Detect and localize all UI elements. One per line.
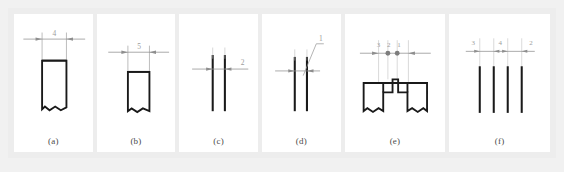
panel-a: 4 (a) (14, 14, 93, 152)
panel-b-caption: (b) (97, 136, 176, 146)
panel-f: 3 4 2 (f) (449, 14, 550, 152)
panel-strip: 4 (a) (14, 14, 550, 152)
panel-e-caption: (e) (345, 136, 446, 146)
panel-d-drawing: 1 (262, 14, 341, 126)
panel-e: 3 2 1 (e) (345, 14, 446, 152)
figure-root: 4 (a) (0, 0, 564, 172)
panel-a-drawing: 4 (14, 14, 93, 126)
panel-b-dimension-label: 5 (137, 42, 141, 51)
panel-d-dimension-label: 1 (319, 34, 323, 43)
panel-c-dimension-label: 2 (241, 58, 245, 67)
panel-c-drawing: 2 (179, 14, 258, 126)
panel-e-drawing: 3 2 1 (345, 14, 446, 126)
panel-f-caption: (f) (449, 136, 550, 146)
panel-e-dimension-label-2: 2 (387, 41, 391, 49)
panel-e-dimension-label-1: 3 (376, 41, 380, 49)
panel-f-dimension-label-1: 3 (472, 39, 476, 47)
panel-e-node-1 (385, 51, 390, 56)
panel-b: 5 (b) (97, 14, 176, 152)
panel-d: 1 (d) (262, 14, 341, 152)
panel-d-caption: (d) (262, 136, 341, 146)
panel-e-node-2 (394, 51, 399, 56)
panel-c-caption: (c) (179, 136, 258, 146)
panel-a-caption: (a) (14, 136, 93, 146)
panel-f-drawing: 3 4 2 (449, 14, 550, 126)
panel-b-drawing: 5 (97, 14, 176, 126)
panel-f-dimension-label-3: 2 (530, 39, 534, 47)
panel-a-dimension-label: 4 (52, 29, 56, 38)
panel-f-dimension-label-2: 4 (499, 39, 503, 47)
panel-c: 2 (c) (179, 14, 258, 152)
panel-e-dimension-label-3: 1 (397, 41, 401, 49)
